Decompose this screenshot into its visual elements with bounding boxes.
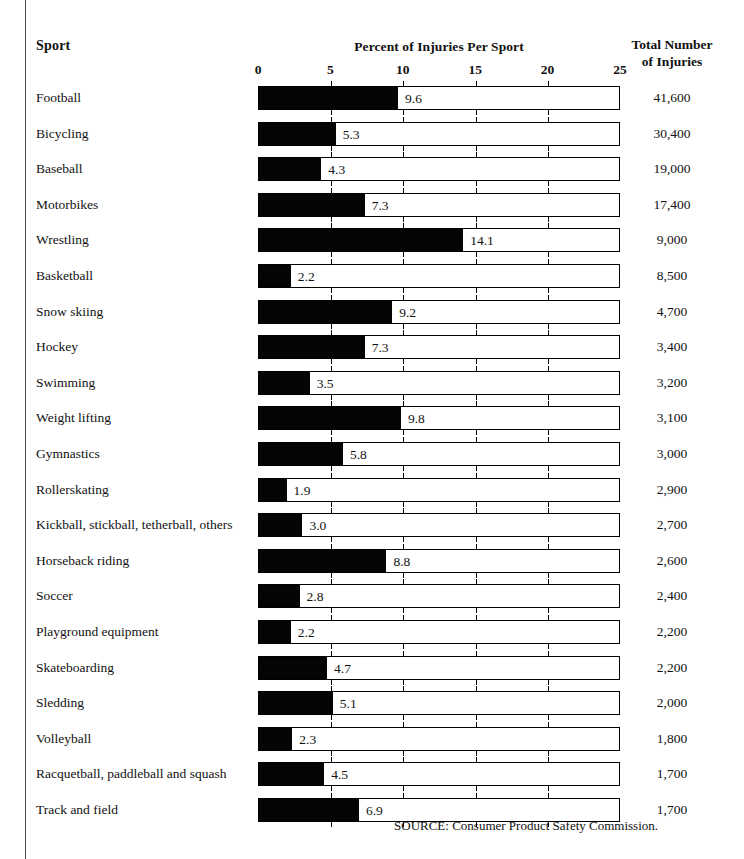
chart-row: Sledding5.12,000 [0,691,744,715]
row-total-injuries: 3,000 [612,442,732,466]
axis-tick-mark [331,216,332,222]
axis-tick-mark [548,323,549,329]
axis-tick-mark [548,473,549,479]
axis-tick-mark [331,501,332,507]
axis-tick-mark [476,501,477,507]
chart-row: Wrestling14.19,000 [0,228,744,252]
axis-tick-mark [403,401,404,407]
bar-fill [259,443,343,465]
bar-track: 5.3 [258,122,620,146]
axis-tick-mark [476,401,477,407]
axis-tick-mark [331,651,332,657]
chart-row: Hockey7.33,400 [0,335,744,359]
axis-tick-mark [548,437,549,443]
axis-tick-mark [548,109,549,115]
row-label-sport: Baseball [36,157,83,181]
axis-tick-mark [403,750,404,756]
chart-row: Weight lifting9.83,100 [0,406,744,430]
row-label-sport: Racquetball, paddleball and squash [36,762,226,786]
bar-fill [259,479,287,501]
axis-tick-mark [548,216,549,222]
axis-tick-mark [548,465,549,471]
row-label-sport: Hockey [36,335,78,359]
bar-value-label: 4.7 [334,657,351,681]
axis-tick-mark [476,429,477,435]
row-label-sport: Playground equipment [36,620,159,644]
row-label-sport: Football [36,86,81,110]
bar-value-label: 7.3 [372,336,389,360]
bar-fill [259,87,398,109]
axis-tick-mark [403,323,404,329]
axis-tick-mark [403,330,404,336]
chart-row: Gymnastics5.83,000 [0,442,744,466]
row-total-injuries: 2,200 [612,656,732,680]
axis-tick-mark [548,152,549,158]
bar-track: 5.8 [258,442,620,466]
axis-tick-mark [403,679,404,685]
row-total-injuries: 3,100 [612,406,732,430]
bar-track: 4.7 [258,656,620,680]
axis-tick-mark [476,180,477,186]
axis-tick-mark [403,109,404,115]
axis-tick-mark [548,251,549,257]
axis-tick-mark [331,401,332,407]
axis-tick-mark [331,785,332,791]
axis-tick-mark [548,536,549,542]
axis-tick-mark [548,757,549,763]
bar-value-label: 9.8 [408,407,425,431]
bar-fill [259,763,324,785]
row-label-sport: Snow skiing [36,300,103,324]
bar-track: 3.0 [258,513,620,537]
bar-fill [259,550,386,572]
chart-row: Basketball2.28,500 [0,264,744,288]
bar-track: 8.8 [258,549,620,573]
axis-tick-mark [331,366,332,372]
bar-value-label: 3.5 [317,372,334,396]
axis-tick-mark [403,81,404,87]
axis-tick-mark [331,607,332,613]
bar-value-label: 9.2 [399,301,416,325]
axis-tick-mark [331,757,332,763]
chart-row: Motorbikes7.317,400 [0,193,744,217]
bar-track: 2.2 [258,264,620,288]
axis-tick-mark [476,750,477,756]
bar-value-label: 1.9 [294,479,311,503]
axis-tick-mark [331,287,332,293]
chart-row: Horseback riding8.82,600 [0,549,744,573]
axis-tick-mark [476,251,477,257]
bar-value-label: 2.2 [298,621,315,645]
bar-fill [259,265,291,287]
row-total-injuries: 17,400 [612,193,732,217]
axis-tick-mark [476,216,477,222]
axis-tick-mark [476,295,477,301]
axis-tick-mark [331,358,332,364]
row-total-injuries: 8,500 [612,264,732,288]
axis-tick-mark [403,722,404,728]
axis-tick-mark [403,152,404,158]
bar-fill [259,301,392,323]
bar-track: 7.3 [258,335,620,359]
axis-tick-mark [403,714,404,720]
axis-tick-mark [403,366,404,372]
axis-tick-mark [476,323,477,329]
axis-tick-mark [548,295,549,301]
axis-tick-mark [476,643,477,649]
axis-tick-mark [548,81,549,87]
axis-tick-mark [548,180,549,186]
bar-value-label: 5.3 [343,123,360,147]
axis-tick-mark [403,358,404,364]
axis-tick-mark [476,287,477,293]
row-total-injuries: 1,700 [612,762,732,786]
bar-fill [259,657,327,679]
axis-tick-mark [476,793,477,799]
row-label-sport: Rollerskating [36,478,109,502]
axis-tick-mark [476,757,477,763]
axis-tick-mark [548,643,549,649]
axis-tick-mark [476,437,477,443]
chart-row: Rollerskating1.92,900 [0,478,744,502]
row-total-injuries: 2,400 [612,584,732,608]
axis-tick-mark [331,223,332,229]
axis-tick-mark [403,501,404,507]
bar-fill [259,585,300,607]
axis-tick-mark [403,145,404,151]
